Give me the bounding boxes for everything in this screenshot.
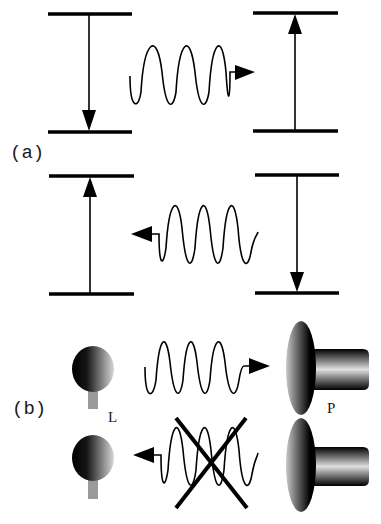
ligand-ball <box>72 435 114 481</box>
arrow-right-icon <box>235 65 255 80</box>
arrow-up-icon <box>288 14 302 34</box>
protein-receptor-bottom <box>286 418 369 512</box>
blocked-cross-icon <box>176 418 247 508</box>
arrow-down-icon <box>290 272 304 292</box>
energy-transfer-diagram <box>0 0 381 524</box>
wave-line <box>151 206 258 264</box>
energy-diagram-bottom-left <box>49 176 134 294</box>
wave-line <box>145 342 250 394</box>
receptor-cap <box>286 418 316 512</box>
energy-diagram-top-right <box>253 13 338 131</box>
wave-line <box>130 46 236 104</box>
panel-b-label: (b) <box>12 400 46 419</box>
ligand-top <box>72 346 114 409</box>
photon-wave-left-blocked <box>133 418 258 508</box>
energy-diagram-bottom-right <box>255 175 339 293</box>
energy-diagram-top-left <box>48 14 132 132</box>
photon-wave-right-bottom <box>145 342 270 394</box>
arrow-down-icon <box>82 110 96 131</box>
receptor-cap <box>286 321 316 415</box>
arrow-left-icon <box>133 447 154 463</box>
receptor-cylinder <box>312 349 369 390</box>
photon-wave-left-middle <box>131 206 258 264</box>
ligand-stem <box>88 478 98 499</box>
arrow-left-icon <box>131 226 152 242</box>
ligand-bottom <box>72 435 114 499</box>
ligand-ball <box>72 346 114 392</box>
ligand-label: L <box>108 410 117 425</box>
protein-label: P <box>327 401 335 416</box>
arrow-up-icon <box>83 177 97 197</box>
photon-wave-right-top <box>130 46 255 104</box>
panel-a-label: (a) <box>10 144 44 163</box>
arrow-right-icon <box>249 358 270 374</box>
receptor-cylinder <box>312 447 369 486</box>
